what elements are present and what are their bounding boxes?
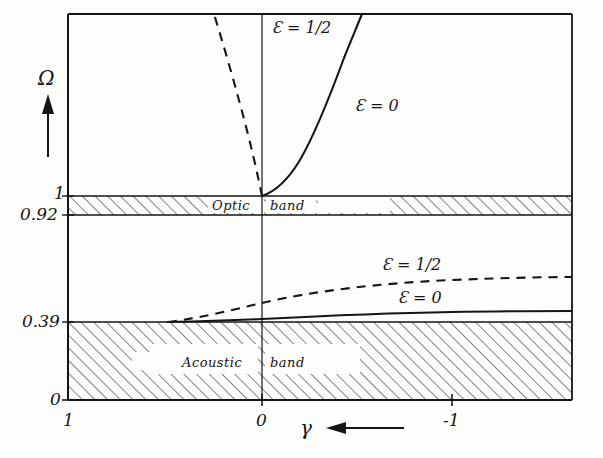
- optic-band-label-right: band: [270, 198, 305, 213]
- curve-optic-dashed: [214, 14, 262, 196]
- curve-optic-solid: [262, 14, 362, 196]
- optic-solid-curve-label: Ɛ = 0: [355, 96, 399, 115]
- optic-band-region: [68, 196, 572, 215]
- omega-axis-arrow: [42, 94, 54, 157]
- x-tick-1: 1: [63, 410, 74, 430]
- y-tick-1: 1: [54, 183, 65, 203]
- dispersion-figure: [0, 0, 603, 458]
- acoustic-band-region: [68, 322, 572, 400]
- y-tick-0: 0: [50, 389, 61, 409]
- curve-acoustic-solid: [168, 311, 572, 322]
- x-tick-0: 0: [256, 410, 267, 430]
- y-axis-title: Ω: [38, 66, 55, 90]
- gamma-axis-arrow: [326, 422, 404, 434]
- x-axis-title: γ: [300, 416, 312, 440]
- acoustic-band-label-right: band: [270, 355, 305, 370]
- acoustic-solid-curve-label: Ɛ = 0: [398, 288, 442, 307]
- x-tick-minus-1: -1: [443, 410, 460, 430]
- y-tick-0-39: 0.39: [22, 311, 60, 331]
- optic-band-label-left: Optic: [212, 198, 250, 213]
- optic-dashed-curve-label: Ɛ = 1/2: [272, 18, 331, 37]
- y-tick-0-92: 0.92: [20, 204, 58, 224]
- acoustic-dashed-curve-label: Ɛ = 1/2: [382, 255, 441, 274]
- acoustic-band-label-left: Acoustic: [182, 355, 242, 370]
